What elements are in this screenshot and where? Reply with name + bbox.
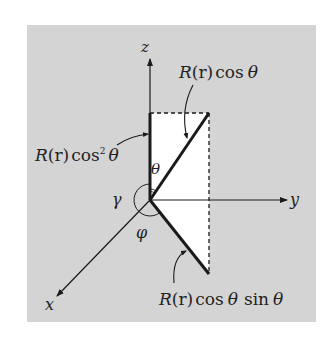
annotation-fn: cos bbox=[215, 62, 243, 82]
diagram: z y x θ γ φ R(r)cos2θ R(r)cosθ R(r)cosθs… bbox=[0, 0, 332, 340]
annotation-fn2: sin bbox=[244, 289, 269, 309]
annotation-superscript: 2 bbox=[100, 146, 106, 156]
annotation-arg1: θ bbox=[228, 289, 238, 309]
annotation-arg2: θ bbox=[273, 289, 283, 309]
annotation-r: (r) bbox=[172, 289, 193, 309]
annotation-arg: θ bbox=[248, 62, 258, 82]
lower-segment-annotation: R(r)cosθsinθ bbox=[158, 289, 283, 309]
annotation-r: (r) bbox=[48, 145, 69, 165]
z-axis-label: z bbox=[140, 38, 149, 56]
annotation-r: (r) bbox=[192, 62, 213, 82]
theta-label: θ bbox=[151, 160, 160, 178]
annotation-R: R bbox=[158, 289, 172, 309]
annotation-arg: θ bbox=[108, 145, 118, 165]
x-axis-label: x bbox=[45, 295, 54, 314]
phi-label: φ bbox=[136, 223, 148, 242]
gamma-label: γ bbox=[112, 190, 122, 209]
annotation-fn: cos bbox=[71, 145, 99, 165]
annotation-R: R bbox=[34, 145, 48, 165]
y-axis-label: y bbox=[289, 190, 300, 209]
annotation-R: R bbox=[178, 62, 192, 82]
annotation-fn1: cos bbox=[195, 289, 223, 309]
